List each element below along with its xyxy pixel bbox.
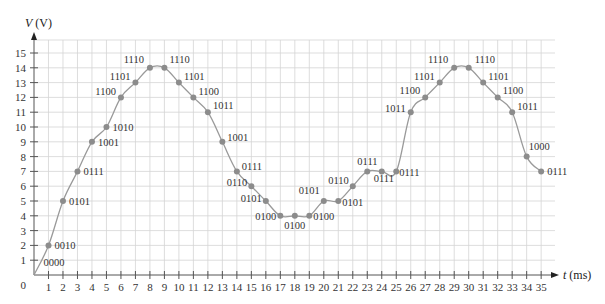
sample-point <box>234 168 240 174</box>
binary-code-label: 0111 <box>242 161 262 172</box>
x-tick-label: 17 <box>275 281 287 293</box>
sample-point <box>422 94 428 100</box>
binary-code-label: 0100 <box>284 220 305 231</box>
y-tick-label: 10 <box>15 121 27 133</box>
y-axis-title: V (V) <box>25 16 52 30</box>
binary-code-label: 1100 <box>95 86 116 97</box>
sample-point <box>509 109 515 115</box>
binary-code-label: 1110 <box>475 54 495 65</box>
sample-point <box>335 198 341 204</box>
binary-code-label: 1110 <box>428 54 448 65</box>
x-tick-label: 19 <box>304 281 316 293</box>
y-tick-label: 7 <box>21 165 27 177</box>
x-tick-label: 27 <box>420 281 432 293</box>
sample-point <box>495 94 501 100</box>
binary-code-label: 1101 <box>110 71 131 82</box>
x-tick-label: 9 <box>162 281 168 293</box>
x-tick-label: 31 <box>478 281 489 293</box>
binary-code-label: 0000 <box>43 257 64 268</box>
x-tick-label: 24 <box>376 281 388 293</box>
binary-code-label: 0111 <box>374 173 394 184</box>
x-tick-label: 25 <box>391 281 403 293</box>
binary-code-label: 0111 <box>83 166 103 177</box>
binary-code-label: 1001 <box>98 137 119 148</box>
sample-point <box>176 80 182 86</box>
y-tick-label: 4 <box>21 210 27 222</box>
sample-point <box>103 124 109 130</box>
binary-code-label: 1000 <box>529 141 550 152</box>
binary-code-label: 1110 <box>124 54 144 65</box>
sample-point <box>118 94 124 100</box>
x-tick-label: 18 <box>289 281 301 293</box>
x-axis-arrow-icon <box>551 272 559 278</box>
x-tick-label: 29 <box>449 281 461 293</box>
sample-point <box>248 183 254 189</box>
binary-code-label: 1001 <box>227 132 248 143</box>
x-tick-label: 6 <box>118 281 124 293</box>
x-tick-label: 13 <box>217 281 229 293</box>
x-tick-label: 1 <box>46 281 52 293</box>
sample-point <box>219 139 225 145</box>
code-labels: 0000001001010111100110101100110111101110… <box>43 54 567 268</box>
x-tick-label: 15 <box>246 281 258 293</box>
x-tick-label: 30 <box>463 281 475 293</box>
sample-point <box>480 80 486 86</box>
sample-point <box>60 198 66 204</box>
binary-code-label: 1100 <box>503 85 524 96</box>
y-tick-label: 8 <box>21 151 27 163</box>
binary-code-label: 1011 <box>213 100 234 111</box>
binary-code-label: 1010 <box>112 122 133 133</box>
binary-code-label: 0110 <box>227 177 248 188</box>
sample-point <box>451 65 457 71</box>
y-tick-label: 15 <box>15 47 27 59</box>
binary-code-label: 1100 <box>400 85 421 96</box>
x-tick-label: 2 <box>60 281 66 293</box>
sample-point <box>147 65 153 71</box>
y-tick-label: 3 <box>21 225 27 237</box>
sample-point <box>524 154 530 160</box>
sample-point <box>190 94 196 100</box>
x-tick-label: 11 <box>188 281 199 293</box>
binary-code-label: 0101 <box>69 196 90 207</box>
x-tick-label: 8 <box>147 281 153 293</box>
sample-point <box>350 183 356 189</box>
x-tick-label: 21 <box>333 281 344 293</box>
origin-label: 0 <box>21 279 27 291</box>
sample-point <box>205 109 211 115</box>
x-tick-label: 14 <box>231 281 243 293</box>
binary-code-label: 0010 <box>54 240 75 251</box>
sample-point <box>292 213 298 219</box>
x-tick-label: 32 <box>492 281 503 293</box>
sample-point <box>74 168 80 174</box>
sample-point <box>437 80 443 86</box>
sample-point <box>132 80 138 86</box>
y-tick-label: 5 <box>21 195 27 207</box>
binary-code-label: 0100 <box>255 211 276 222</box>
sample-point <box>89 139 95 145</box>
binary-code-label: 1101 <box>488 71 509 82</box>
x-tick-label: 12 <box>202 281 213 293</box>
sample-point <box>364 168 370 174</box>
binary-code-label: 0101 <box>299 185 320 196</box>
binary-code-label: 1011 <box>517 101 538 112</box>
binary-code-label: 1101 <box>414 71 435 82</box>
y-tick-label: 11 <box>15 106 26 118</box>
x-tick-label: 22 <box>347 281 358 293</box>
sample-point <box>306 213 312 219</box>
x-tick-label: 4 <box>89 281 95 293</box>
x-axis-title: t (ms) <box>563 268 591 282</box>
x-tick-label: 16 <box>260 281 272 293</box>
y-tick-label: 14 <box>15 62 27 74</box>
x-tick-label: 23 <box>362 281 374 293</box>
x-tick-label: 10 <box>173 281 185 293</box>
sample-point <box>277 213 283 219</box>
binary-code-label: 1011 <box>385 103 406 114</box>
binary-code-label: 0101 <box>241 193 262 204</box>
binary-code-label: 0110 <box>328 175 349 186</box>
sample-point <box>408 109 414 115</box>
y-tick-label: 6 <box>21 180 27 192</box>
x-tick-label: 35 <box>536 281 548 293</box>
binary-code-label: 0101 <box>342 197 363 208</box>
x-tick-label: 33 <box>507 281 519 293</box>
y-tick-label: 9 <box>21 136 27 148</box>
